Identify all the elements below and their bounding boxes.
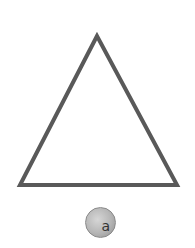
triangle-shape — [20, 36, 177, 185]
label-badge: a — [85, 207, 116, 238]
badge-label: a — [101, 219, 110, 233]
